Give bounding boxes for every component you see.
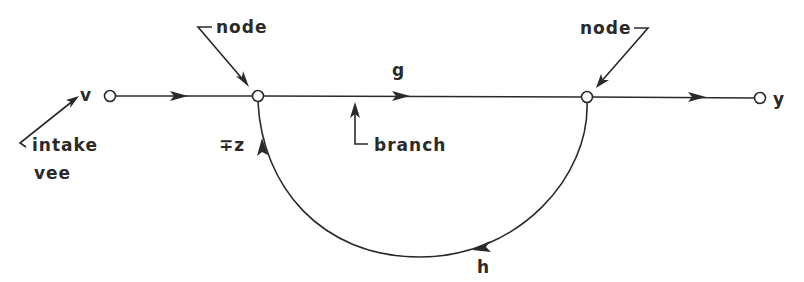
output-label-y: y: [773, 89, 785, 109]
feedback-gain-h: h: [477, 257, 490, 277]
branch-label: branch: [374, 135, 446, 155]
input-label-v: v: [80, 85, 92, 105]
input-node: [105, 91, 116, 102]
forward-branch-g: [263, 96, 582, 97]
intake-arrowhead: [66, 96, 79, 108]
intake-label: intake: [32, 135, 98, 155]
output-branch: [592, 97, 755, 98]
pickoff-node: [582, 92, 593, 103]
feedback-sign-z: ∓z: [219, 135, 245, 155]
vee-label: vee: [34, 163, 71, 183]
feedback-branch-h: [258, 102, 587, 257]
arrowhead-feedback: [472, 241, 491, 252]
node-right-label: node: [580, 18, 631, 38]
node-left-label: node: [216, 17, 267, 37]
signal-flow-diagram: node node branch intake vee v y g h ∓z: [0, 0, 804, 282]
summing-node: [253, 91, 264, 102]
output-node: [755, 93, 766, 104]
forward-gain-g: g: [392, 60, 405, 80]
